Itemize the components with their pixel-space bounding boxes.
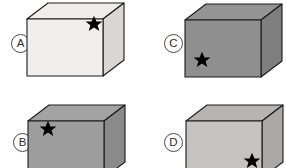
option-a-quadrant[interactable]: A xyxy=(0,0,143,84)
option-b-box xyxy=(28,104,128,168)
option-d-quadrant[interactable]: D xyxy=(143,84,286,168)
option-d-box xyxy=(186,104,286,168)
option-c-quadrant[interactable]: C xyxy=(143,0,286,84)
option-d-label: D xyxy=(164,133,183,152)
option-a-box xyxy=(27,2,127,80)
option-c-box xyxy=(185,3,285,81)
option-b-quadrant[interactable]: B xyxy=(0,84,143,168)
option-c-label: C xyxy=(164,34,183,53)
box-front-face xyxy=(28,121,104,168)
spatial-reasoning-figure: A C B xyxy=(0,0,286,168)
box-front-face xyxy=(185,20,261,77)
